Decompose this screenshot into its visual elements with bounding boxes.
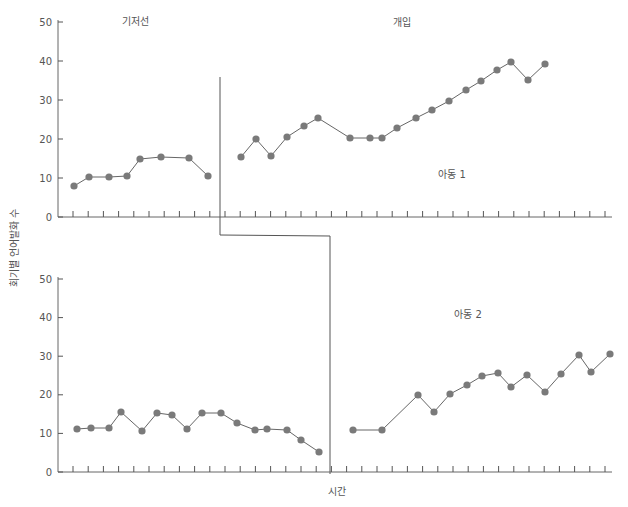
child-2-label: 아동 2 <box>454 309 482 320</box>
data-point-marker <box>283 133 290 140</box>
data-point-marker <box>430 408 437 415</box>
data-point-marker <box>136 155 143 162</box>
figure: 회기별 언어발화 수 01020304050 기저선 개입 아동 1 01020… <box>0 0 628 507</box>
bottom-y-ticks: 01020304050 <box>39 274 63 478</box>
data-point-marker <box>117 408 124 415</box>
series-line <box>77 412 319 452</box>
data-point-marker <box>412 114 419 121</box>
bottom-x-ticks <box>73 466 605 472</box>
data-point-marker <box>541 388 548 395</box>
data-point-marker <box>183 425 190 432</box>
top-data-series <box>70 58 548 189</box>
data-point-marker <box>300 122 307 129</box>
data-point-marker <box>123 172 130 179</box>
data-point-marker <box>138 427 145 434</box>
data-point-marker <box>494 369 501 376</box>
y-tick-label: 10 <box>39 428 52 439</box>
data-point-marker <box>366 134 373 141</box>
data-point-marker <box>393 124 400 131</box>
data-point-marker <box>314 114 321 121</box>
bottom-chart: 01020304050 아동 2 <box>39 274 613 478</box>
data-point-marker <box>478 372 485 379</box>
y-tick-label: 20 <box>39 389 52 400</box>
y-tick-label: 50 <box>39 17 52 28</box>
data-point-marker <box>541 60 548 67</box>
data-point-marker <box>477 77 484 84</box>
data-point-marker <box>204 172 211 179</box>
top-chart: 01020304050 기저선 개입 아동 1 <box>39 16 612 223</box>
data-point-marker <box>217 409 224 416</box>
data-point-marker <box>233 419 240 426</box>
data-point-marker <box>185 154 192 161</box>
data-point-marker <box>507 58 514 65</box>
data-point-marker <box>378 134 385 141</box>
data-point-marker <box>507 383 514 390</box>
y-tick-label: 30 <box>39 95 52 106</box>
data-point-marker <box>157 153 164 160</box>
y-tick-label: 40 <box>39 56 52 67</box>
data-point-marker <box>493 66 500 73</box>
y-tick-label: 0 <box>46 467 52 478</box>
data-point-marker <box>606 350 613 357</box>
data-point-marker <box>251 426 258 433</box>
data-point-marker <box>428 106 435 113</box>
y-tick-label: 20 <box>39 134 52 145</box>
data-point-marker <box>105 424 112 431</box>
data-point-marker <box>87 424 94 431</box>
data-point-marker <box>349 426 356 433</box>
y-tick-label: 50 <box>39 274 52 285</box>
data-point-marker <box>73 425 80 432</box>
top-y-ticks: 01020304050 <box>39 17 63 223</box>
top-x-ticks <box>73 211 605 217</box>
data-point-marker <box>462 86 469 93</box>
data-point-marker <box>346 134 353 141</box>
phase-change-line <box>220 77 330 474</box>
data-point-marker <box>414 391 421 398</box>
intervention-phase-label: 개입 <box>393 16 411 28</box>
data-point-marker <box>283 426 290 433</box>
series-line <box>241 62 545 157</box>
data-point-marker <box>297 436 304 443</box>
data-point-marker <box>263 425 270 432</box>
bottom-data-series <box>73 350 613 455</box>
data-point-marker <box>252 135 259 142</box>
data-point-marker <box>587 368 594 375</box>
data-point-marker <box>168 411 175 418</box>
y-tick-label: 10 <box>39 173 52 184</box>
data-point-marker <box>523 371 530 378</box>
x-axis-label: 시간 <box>328 486 346 497</box>
data-point-marker <box>557 370 564 377</box>
data-point-marker <box>267 152 274 159</box>
data-point-marker <box>445 97 452 104</box>
data-point-marker <box>85 173 92 180</box>
data-point-marker <box>105 173 112 180</box>
data-point-marker <box>378 426 385 433</box>
data-point-marker <box>463 381 470 388</box>
series-line <box>353 354 610 430</box>
y-tick-label: 0 <box>46 212 52 223</box>
data-point-marker <box>70 182 77 189</box>
data-point-marker <box>524 76 531 83</box>
data-point-marker <box>198 409 205 416</box>
baseline-phase-label: 기저선 <box>122 16 149 27</box>
data-point-marker <box>237 153 244 160</box>
data-point-marker <box>446 390 453 397</box>
data-point-marker <box>315 448 322 455</box>
child-1-label: 아동 1 <box>438 169 466 180</box>
data-point-marker <box>153 409 160 416</box>
y-tick-label: 40 <box>39 312 52 323</box>
y-tick-label: 30 <box>39 351 52 362</box>
data-point-marker <box>575 351 582 358</box>
y-axis-label: 회기별 언어발화 수 <box>9 209 20 287</box>
